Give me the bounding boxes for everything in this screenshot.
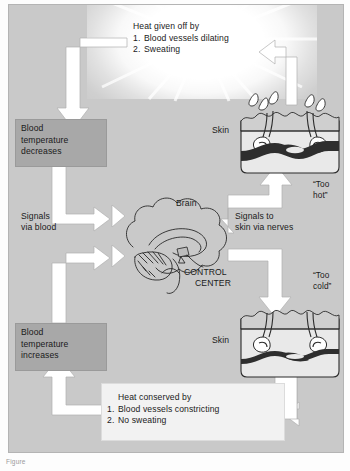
- skin-label-top: Skin: [212, 125, 229, 136]
- brain-label: Brain: [176, 198, 197, 209]
- blood-temperature-increases-text: Blood temperature increases: [21, 327, 103, 362]
- bti-line-3: increases: [21, 350, 103, 362]
- signals-to-skin-line-2: skin via nerves: [235, 222, 293, 233]
- list-number: 1.: [133, 33, 144, 45]
- control-center-line-2: CENTER: [184, 278, 231, 289]
- too-cold-line-1: “Too: [313, 270, 331, 281]
- figure-canvas: Heat given off by 1. Blood vessels dilat…: [0, 0, 350, 471]
- skin-label-bottom: Skin: [212, 335, 229, 346]
- too-cold-line-2: cold”: [313, 281, 331, 292]
- bti-line-2: temperature: [21, 339, 103, 351]
- list-number: 2.: [107, 415, 118, 427]
- figure-caption: Figure: [6, 458, 26, 465]
- sweat-droplets-hot: [249, 92, 325, 111]
- bti-line-1: Blood: [21, 327, 103, 339]
- arrow-blood-increase-stem: [52, 263, 66, 323]
- btd-line-3: decreases: [21, 146, 103, 158]
- list-number: 2.: [133, 44, 144, 56]
- signals-to-skin-line-1: Signals to: [235, 211, 293, 222]
- arrow-chevron-signals-blood-lower: [66, 246, 110, 270]
- diagram-panel: Heat given off by 1. Blood vessels dilat…: [8, 4, 344, 453]
- list-text: Sweating: [144, 44, 180, 56]
- heat-conserved-item-1: 1. Blood vessels constricting: [107, 404, 283, 416]
- signals-via-blood-line-1: Signals: [21, 211, 56, 222]
- heat-given-off-item-1: 1. Blood vessels dilating: [133, 33, 313, 45]
- control-center-label: CONTROL CENTER: [184, 267, 231, 290]
- signals-via-blood-label: Signals via blood: [21, 211, 56, 234]
- list-text: Blood vessels constricting: [118, 404, 219, 416]
- heat-conserved-text: Heat conserved by 1. Blood vessels const…: [107, 392, 283, 427]
- too-hot-line-2: hot”: [313, 190, 330, 201]
- heat-conserved-item-2: 2. No sweating: [107, 415, 283, 427]
- arrow-heat-to-blood-decrease: [57, 38, 127, 129]
- signals-to-skin-label: Signals to skin via nerves: [235, 211, 293, 234]
- too-hot-label: “Too hot”: [313, 179, 330, 202]
- heat-given-off-text: Heat given off by 1. Blood vessels dilat…: [133, 21, 313, 56]
- list-text: Blood vessels dilating: [144, 33, 229, 45]
- btd-line-2: temperature: [21, 135, 103, 147]
- heat-given-off-item-2: 2. Sweating: [133, 44, 313, 56]
- list-number: 1.: [107, 404, 118, 416]
- heat-conserved-heading: Heat conserved by: [107, 392, 283, 404]
- arrow-blood-decrease-to-brain: [52, 165, 110, 231]
- list-text: No sweating: [118, 415, 166, 427]
- too-hot-line-1: “Too: [313, 179, 330, 190]
- heat-given-off-heading: Heat given off by: [133, 21, 313, 33]
- too-cold-label: “Too cold”: [313, 270, 331, 293]
- control-center-line-1: CONTROL: [184, 267, 231, 278]
- signals-via-blood-line-2: via blood: [21, 222, 56, 233]
- blood-temperature-decreases-text: Blood temperature decreases: [21, 123, 103, 158]
- btd-line-1: Blood: [21, 123, 103, 135]
